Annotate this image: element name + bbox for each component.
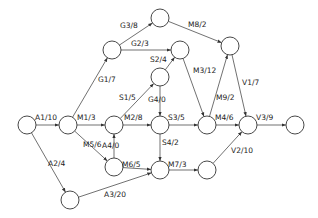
event-node	[151, 161, 169, 179]
event-node	[59, 116, 77, 134]
event-node	[171, 41, 189, 59]
network-diagram: A1/10A2/4A3/20G1/7G3/8G2/3M8/2M1/3M5/6M2…	[0, 0, 318, 218]
edge-label: M5/6	[83, 140, 102, 149]
edge-label: A1/10	[35, 113, 57, 122]
event-node	[198, 161, 216, 179]
event-node	[151, 116, 169, 134]
event-node	[61, 191, 79, 209]
edge-label: S1/5	[119, 93, 136, 102]
edge-label: S2/4	[150, 55, 167, 64]
event-node	[198, 116, 216, 134]
event-node	[151, 68, 169, 86]
edge-label: V1/7	[242, 78, 259, 87]
edge-label: S4/2	[162, 138, 179, 147]
edge-arrow	[210, 55, 228, 117]
event-node	[105, 158, 123, 176]
edge-label: M4/6	[215, 113, 234, 122]
edge-label: G1/7	[98, 75, 116, 84]
event-node	[286, 116, 304, 134]
edge-label: M9/2	[216, 93, 235, 102]
event-node	[221, 37, 239, 55]
edge-label: V2/10	[231, 146, 253, 155]
edge-label: G3/8	[120, 21, 138, 30]
edge-label: M3/12	[193, 66, 217, 75]
edge-label: M6/5	[122, 160, 141, 169]
event-node	[18, 116, 36, 134]
edge-label: M1/3	[77, 113, 96, 122]
event-node	[105, 116, 123, 134]
event-node	[151, 9, 169, 27]
edge-label: M7/3	[168, 160, 187, 169]
event-node	[103, 41, 121, 59]
nodes-layer	[18, 9, 304, 209]
edge-label: M2/8	[124, 113, 143, 122]
edge-arrow	[73, 58, 108, 117]
edge-label: M8/2	[188, 20, 207, 29]
edge-label: S3/5	[168, 113, 185, 122]
edge-label: A2/4	[48, 159, 65, 168]
edge-label: A3/20	[104, 190, 126, 199]
edge-label: G4/0	[148, 95, 166, 104]
edge-label: A4/0	[102, 141, 119, 150]
edge-label: V3/9	[256, 113, 273, 122]
event-node	[239, 116, 257, 134]
edge-label: G2/3	[131, 39, 149, 48]
